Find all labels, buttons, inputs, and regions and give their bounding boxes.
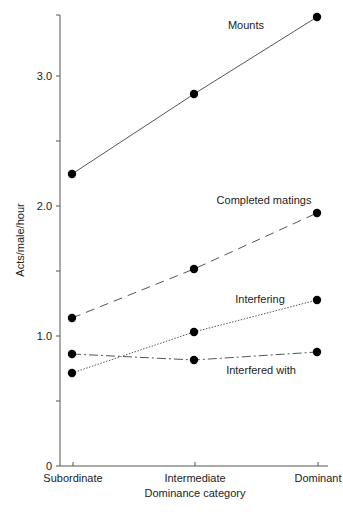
x-tick-label: Subordinate [43,472,102,484]
series-label-interfered-with: Interfered with [226,364,296,376]
y-tick-label: 1.0 [37,330,52,342]
x-tick-label: Intermediate [164,472,225,484]
y-tick-label: 0 [46,460,52,472]
series-label-mounts: Mounts [228,19,265,31]
series-label-interfering: Interfering [235,293,285,305]
x-ticks [73,462,318,466]
x-axis-title: Dominance category [145,487,246,499]
series-interfered-with-markers [68,348,321,364]
y-tick-label: 2.0 [37,200,52,212]
y-tick-label: 3.0 [37,70,52,82]
y-ticks [56,15,60,466]
line-chart: 0 1.0 2.0 3.0 Subordinate Intermediate D… [0,0,343,515]
series-label-completed-matings: Completed matings [217,194,312,206]
series-completed-matings-markers [68,209,321,322]
y-axis-title: Acts/male/hour [14,203,26,277]
x-tick-label: Dominant [294,472,341,484]
